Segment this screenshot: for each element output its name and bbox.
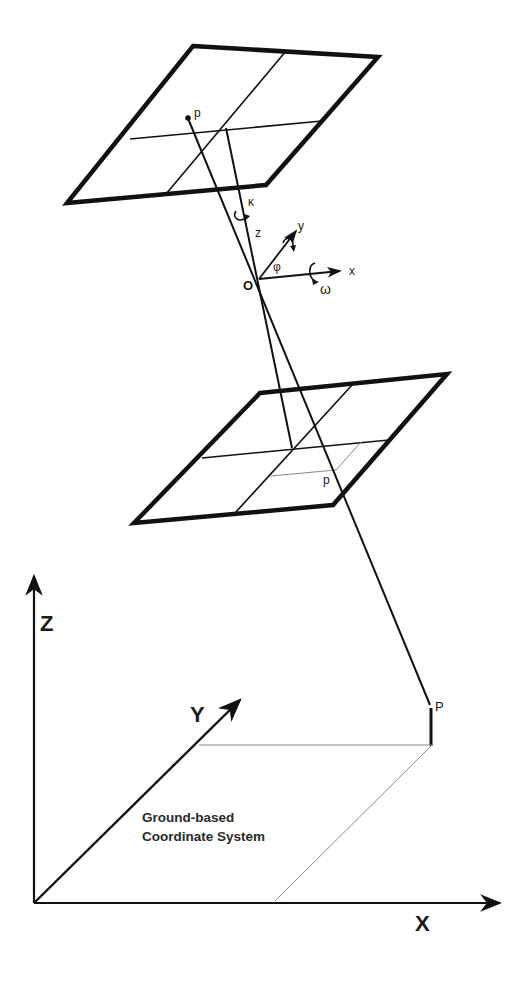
ground-Z-label: Z (40, 611, 53, 636)
collinearity-diagram: p p O κ z y φ x ω P Z Y X Ground-based C… (0, 0, 519, 982)
middle-frame-projection-2 (336, 442, 361, 470)
omega-rotation-icon (310, 263, 315, 281)
middle-image-plane (134, 374, 447, 523)
ground-point-label: P (435, 699, 444, 714)
ground-Y-label: Y (190, 702, 205, 727)
perspective-center-label: O (243, 278, 253, 293)
camera-z-label: z (255, 226, 261, 240)
kappa-label: κ (248, 195, 255, 209)
principal-axis (226, 128, 292, 448)
omega-rotation-arrowhead-icon (312, 279, 319, 285)
kappa-rotation-arrowhead-icon (244, 214, 250, 221)
ground-projection-x (275, 745, 432, 901)
top-image-point-label: p (194, 106, 201, 120)
phi-rotation-arrowhead-icon (290, 245, 296, 252)
ground-Y-axis (34, 700, 240, 903)
omega-label: ω (320, 281, 331, 297)
caption-line-2: Coordinate System (142, 829, 265, 844)
middle-image-point-label: p (323, 473, 330, 487)
camera-x-label: x (349, 264, 355, 278)
top-frame (67, 46, 378, 203)
middle-frame (134, 374, 447, 523)
top-image-point (185, 115, 191, 121)
camera-x-axis (259, 271, 340, 279)
phi-label: φ (273, 260, 281, 274)
top-frame-crosshair-1 (166, 51, 286, 194)
image-ray (187, 116, 430, 705)
ground-X-label: X (415, 911, 430, 936)
top-image-plane (67, 46, 378, 203)
camera-y-label: y (298, 219, 304, 233)
caption-line-1: Ground-based (142, 810, 234, 825)
